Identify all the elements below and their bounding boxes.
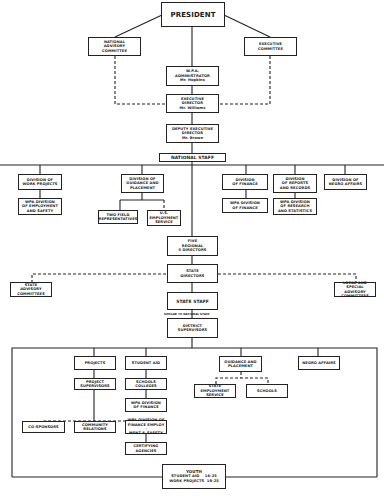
wpa-division-employment-safety-box: WPA DIVISION OF EMPLOYMENT AND SAFETY [18,198,62,215]
negro-affairs-box: NEGRO AFFAIRS [298,356,340,370]
national-advisory-committee-box: NATIONAL ADVISORY COMMITTEE [88,37,141,56]
wpa-division-research-statistics-box: WPA DIVISION OF RESEARCH AND STATISTICS [273,198,317,215]
executive-committee-box: EXECUTIVE COMMITTEE [244,37,297,56]
projects-box: PROJECTS [74,356,116,370]
youth-work-projects: WORK PROJECTS 18-25 [169,479,219,483]
national-staff-box: NATIONAL STAFF [159,153,226,162]
wpa-administrator-box: W.P.A. ADMINISTRATOR Mr. Hopkins [166,66,219,86]
student-aid-box: STUDENT AID [125,356,167,370]
five-regional-directors-box: FIVE REGIONAL 5 DIRECTORS [167,236,218,256]
division-finance-box: DIVISION OF FINANCE [222,174,268,190]
co-sponsors-box: CO-SPONSORS [22,421,65,433]
project-supervisors-box: PROJECT SUPERVISORS [74,378,116,390]
executive-director-box: EXECUTIVE DIRECTOR Mr. Williams [166,94,219,113]
division-work-projects-box: DIVISION OF WORK PROJECTS [18,174,62,190]
division-guidance-placement-box: DIVISION OF GUIDANCE AND PLACEMENT [121,174,164,193]
state-directors-box: STATE DIRECTORS [167,264,218,283]
schools-colleges-box: SCHOOLS COLLEGES [125,378,167,390]
schools-box: SCHOOLS [246,384,288,398]
president-box: PRESIDENT [161,2,225,27]
certifying-agencies-box: CERTIFYING AGENCIES [125,442,167,455]
two-field-representatives-box: TWO FIELD REPRESENTATIVES [98,210,138,224]
community-relations-box: COMMUNITY RELATIONS [74,421,116,433]
wpa-division-finance-box: WPA DIVISION OF FINANCE [222,198,268,213]
state-staff-note: SIMILAR TO NATIONAL STAFF [164,312,210,316]
state-staff-box: STATE STAFF [167,292,218,310]
guidance-placement-box: GUIDANCE AND PLACEMENT [219,356,262,372]
state-employment-service-box: STATE EMPLOYMENT SERVICE [194,384,236,398]
local-special-advisory-committees-box: LOCAL AND SPECIAL ADVISORY COMMITTEES [334,282,376,297]
division-negro-affairs-box: DIVISION OF NEGRO AFFAIRS [324,174,367,190]
division-reports-records-box: DIVISION OF REPORTS AND RECORDS [273,174,317,193]
wpa-division-finance-2-box: WPA DIVISION OF FINANCE [125,398,167,412]
deputy-executive-director-box: DEPUTY EXECUTIVE DIRECTOR Mr. Brown [166,124,219,143]
district-supervisors-box: DISTRICT SUPERVISORS [167,318,218,338]
us-employment-service-box: U.S. EMPLOYMENT SERVICE [147,210,181,226]
wpa-division-finance-employment-safety-box: WPA DIVISION OF FINANCE EMPLOY - MENT & … [125,420,167,434]
state-advisory-committees-box: STATE ADVISORY COMMITTEES [10,282,52,297]
youth-box: YOUTH STUDENT AID 16-25 WORK PROJECTS 18… [162,464,226,489]
